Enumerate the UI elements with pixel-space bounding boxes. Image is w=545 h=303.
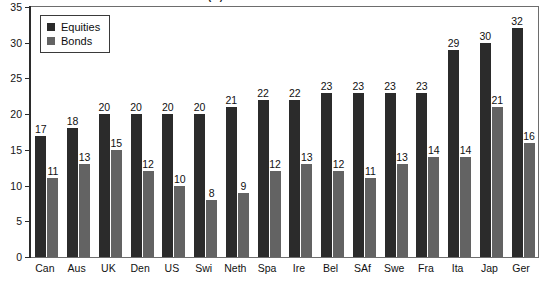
x-axis-label: UK (93, 262, 125, 274)
bar-value-label: 20 (189, 101, 210, 113)
bar-value-label: 29 (443, 37, 464, 49)
bar-chart-figure: Annual returns on shares and bonds (%) 0… (0, 0, 545, 303)
bar-value-label: 22 (253, 87, 274, 99)
x-axis-labels: CanAusUKDenUSSwiNethSpaIreBelSAfSweFraIt… (29, 262, 539, 282)
bar-equities[interactable] (512, 28, 523, 257)
bar-value-label: 11 (42, 165, 63, 177)
bar-group[interactable]: 2314 (412, 7, 444, 257)
bar-value-label: 12 (138, 158, 159, 170)
bar-group[interactable]: 2212 (253, 7, 285, 257)
bar-equities[interactable] (131, 114, 142, 257)
bar-value-label: 12 (265, 158, 286, 170)
legend-swatch-bonds (47, 37, 55, 45)
y-axis-label: 35 (0, 1, 22, 13)
legend-swatch-equities (47, 23, 55, 31)
bar-equities[interactable] (416, 93, 427, 257)
bar-value-label: 11 (360, 165, 381, 177)
bar-value-label: 16 (519, 130, 540, 142)
x-axis-label: Swi (188, 262, 220, 274)
bar-value-label: 23 (316, 80, 337, 92)
y-axis-label: 30 (0, 37, 22, 49)
bar-bonds[interactable] (143, 171, 154, 257)
y-axis-label: 10 (0, 180, 22, 192)
bar-value-label: 21 (487, 94, 508, 106)
chart-title: Annual returns on shares and bonds (%) (36, 0, 223, 2)
bar-bonds[interactable] (79, 164, 90, 257)
bar-bonds[interactable] (492, 107, 503, 257)
x-axis-label: Jap (474, 262, 506, 274)
bar-bonds[interactable] (238, 193, 249, 257)
x-axis-label: Can (29, 262, 61, 274)
bar-value-label: 14 (455, 144, 476, 156)
bar-group[interactable]: 208 (190, 7, 222, 257)
bar-value-label: 20 (94, 101, 115, 113)
bar-value-label: 15 (106, 137, 127, 149)
bar-equities[interactable] (385, 93, 396, 257)
bar-group[interactable]: 2914 (444, 7, 476, 257)
bar-value-label: 22 (284, 87, 305, 99)
bar-value-label: 20 (157, 101, 178, 113)
legend-item-bonds: Bonds (47, 34, 100, 48)
bar-bonds[interactable] (111, 150, 122, 257)
bar-value-label: 18 (62, 115, 83, 127)
legend-item-equities: Equities (47, 20, 100, 34)
bar-value-label: 12 (328, 158, 349, 170)
bar-value-label: 23 (348, 80, 369, 92)
bar-bonds[interactable] (460, 157, 471, 257)
bar-bonds[interactable] (270, 171, 281, 257)
bar-bonds[interactable] (206, 200, 217, 257)
bar-equities[interactable] (289, 100, 300, 257)
chart-legend: Equities Bonds (40, 15, 110, 53)
bar-group[interactable]: 2010 (158, 7, 190, 257)
bar-group[interactable]: 2311 (349, 7, 381, 257)
bar-equities[interactable] (35, 136, 46, 257)
bar-group[interactable]: 2313 (380, 7, 412, 257)
bar-equities[interactable] (194, 114, 205, 257)
x-axis-label: Aus (61, 262, 93, 274)
bar-equities[interactable] (162, 114, 173, 257)
bar-bonds[interactable] (365, 178, 376, 257)
bar-bonds[interactable] (428, 157, 439, 257)
legend-label-bonds: Bonds (61, 36, 92, 47)
bar-equities[interactable] (99, 114, 110, 257)
bar-bonds[interactable] (333, 171, 344, 257)
x-axis-label: Ita (442, 262, 474, 274)
x-axis-label: Ger (505, 262, 537, 274)
bar-value-label: 30 (475, 30, 496, 42)
bar-value-label: 23 (380, 80, 401, 92)
bar-group[interactable]: 2213 (285, 7, 317, 257)
x-axis-label: Ire (283, 262, 315, 274)
bar-equities[interactable] (258, 100, 269, 257)
bar-group[interactable]: 3216 (507, 7, 539, 257)
bar-value-label: 8 (201, 187, 222, 199)
bar-equities[interactable] (67, 128, 78, 257)
bar-value-label: 20 (126, 101, 147, 113)
x-axis-label: Fra (410, 262, 442, 274)
bar-bonds[interactable] (397, 164, 408, 257)
y-axis-spine (29, 6, 31, 258)
bar-bonds[interactable] (174, 186, 185, 257)
x-axis-label: US (156, 262, 188, 274)
bar-value-label: 13 (296, 151, 317, 163)
bar-group[interactable]: 2312 (317, 7, 349, 257)
bar-equities[interactable] (321, 93, 332, 257)
bar-bonds[interactable] (47, 178, 58, 257)
bar-value-label: 32 (507, 15, 528, 27)
bar-bonds[interactable] (301, 164, 312, 257)
y-axis-label: 5 (0, 215, 22, 227)
bar-group[interactable]: 2012 (126, 7, 158, 257)
bar-group[interactable]: 3021 (476, 7, 508, 257)
bar-group[interactable]: 219 (222, 7, 254, 257)
bar-value-label: 9 (233, 180, 254, 192)
y-axis-label: 25 (0, 72, 22, 84)
bar-value-label: 13 (392, 151, 413, 163)
bar-bonds[interactable] (524, 143, 535, 257)
legend-label-equities: Equities (61, 22, 100, 33)
y-axis-label: 15 (0, 144, 22, 156)
y-axis-label: 20 (0, 108, 22, 120)
bar-value-label: 10 (169, 173, 190, 185)
x-axis-label: Den (124, 262, 156, 274)
bar-value-label: 14 (423, 144, 444, 156)
x-axis-label: Bel (315, 262, 347, 274)
bar-equities[interactable] (480, 43, 491, 257)
